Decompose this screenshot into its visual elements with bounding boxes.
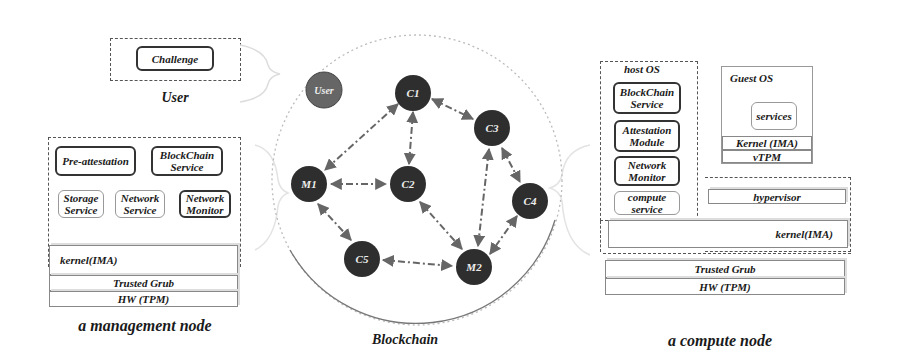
- host-service-attestation-module: Attestation Module: [614, 120, 680, 152]
- svg-text:M2: M2: [465, 261, 482, 273]
- node-c3: C3: [474, 110, 510, 146]
- blockchain-caption: Blockchain: [350, 332, 460, 348]
- compute-layer-trusted-grub: Trusted Grub: [605, 260, 845, 278]
- node-c2: C2: [390, 166, 426, 202]
- svg-text:M1: M1: [300, 178, 316, 190]
- guest-kernel-ima: Kernel (IMA): [722, 136, 812, 150]
- svg-text:C2: C2: [402, 178, 415, 190]
- node-c5: C5: [344, 241, 380, 277]
- guest-vtpm: vTPM: [722, 150, 812, 163]
- compute-dashed-divider: [603, 253, 851, 254]
- svg-text:C5: C5: [356, 253, 369, 265]
- host-service-network-monitor: Network Monitor: [614, 156, 680, 186]
- host-service-blockchain: BlockChain Service: [613, 82, 681, 114]
- node-user: User: [306, 72, 342, 108]
- blockchain-nodes: User C1 C3 M1 C2 C4 C5 M2: [291, 72, 548, 285]
- compute-node-dashed-left: [600, 221, 601, 252]
- host-os-title: host OS: [624, 63, 660, 75]
- node-c4: C4: [512, 183, 548, 219]
- hypervisor-layer: hypervisor: [708, 189, 846, 204]
- guest-os-title: Guest OS: [730, 72, 773, 84]
- compute-node-caption: a compute node: [640, 332, 800, 350]
- node-m1: M1: [291, 166, 327, 202]
- node-m2: M2: [456, 249, 492, 285]
- compute-layer-kernel: kernel(IMA): [608, 220, 848, 248]
- compute-layer-hw-tpm: HW (TPM): [605, 278, 845, 295]
- node-c1: C1: [395, 75, 431, 111]
- svg-text:User: User: [314, 85, 334, 96]
- svg-text:C1: C1: [407, 87, 420, 99]
- svg-text:C3: C3: [486, 122, 499, 134]
- svg-text:C4: C4: [524, 195, 537, 207]
- host-service-compute: compute service: [614, 191, 680, 215]
- guest-services-box: services: [751, 102, 797, 130]
